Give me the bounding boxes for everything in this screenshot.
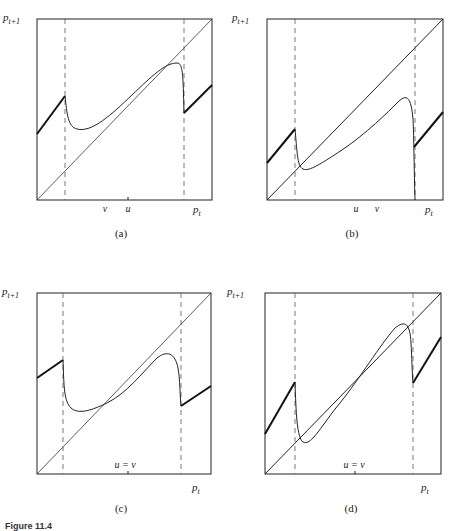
right-branch <box>414 112 443 147</box>
panel-caption: (c) <box>115 502 127 514</box>
y-axis-label: pt+1 <box>2 285 19 300</box>
map-curve <box>63 354 181 412</box>
figure-caption: Figure 11.4 <box>5 521 52 531</box>
tick-label-uv: u = v <box>114 459 135 470</box>
left-branch <box>37 96 65 134</box>
x-axis-label: pt <box>421 481 429 496</box>
y-axis-label: pt+1 <box>227 285 244 300</box>
right-branch <box>181 386 211 406</box>
panel-caption: (d) <box>345 502 358 514</box>
tick-label-v: v <box>103 203 107 214</box>
tick-label-v: v <box>375 203 379 214</box>
right-branch <box>413 337 441 383</box>
tick-label-u: u <box>126 203 131 214</box>
panel-caption: (b) <box>346 227 359 239</box>
diagonal-line <box>265 293 441 474</box>
y-axis-label: pt+1 <box>3 11 20 26</box>
plot-a <box>37 19 212 200</box>
diagonal-line <box>267 19 443 200</box>
plot-c <box>37 293 211 474</box>
x-axis-label: pt <box>192 481 200 496</box>
right-branch <box>184 85 212 113</box>
panel-b: pt+1 pt u v (b) <box>267 19 443 200</box>
tick-label-u: u <box>354 203 359 214</box>
tick-label-uv: u = v <box>343 459 364 470</box>
panel-caption: (a) <box>115 227 127 239</box>
map-curve <box>295 98 415 200</box>
left-branch <box>265 382 295 434</box>
plot-b <box>267 19 443 200</box>
diagonal-line <box>37 19 212 200</box>
x-axis-label: pt <box>193 203 201 218</box>
x-axis-label: pt <box>425 203 433 218</box>
panel-d: pt+1 pt u = v (d) <box>265 293 441 474</box>
panel-a: pt+1 pt v u (a) <box>37 19 212 200</box>
y-axis-label: pt+1 <box>232 11 249 26</box>
map-curve <box>65 63 184 130</box>
left-branch <box>37 360 63 378</box>
left-branch <box>267 129 295 163</box>
panel-c: pt+1 pt u = v (c) <box>37 293 211 474</box>
plot-d <box>265 293 441 474</box>
